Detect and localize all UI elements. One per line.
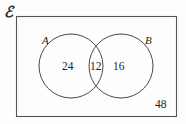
universal-set-symbol: ℰ — [4, 5, 13, 20]
set-b-label: B — [145, 35, 152, 46]
count-b-only: 16 — [113, 61, 125, 73]
count-outside-sets: 48 — [155, 99, 167, 111]
count-intersection: 12 — [90, 61, 102, 73]
count-a-only: 24 — [62, 61, 74, 73]
venn-diagram: ℰ A B 24 12 16 48 — [0, 0, 186, 124]
set-a-label: A — [42, 35, 49, 46]
